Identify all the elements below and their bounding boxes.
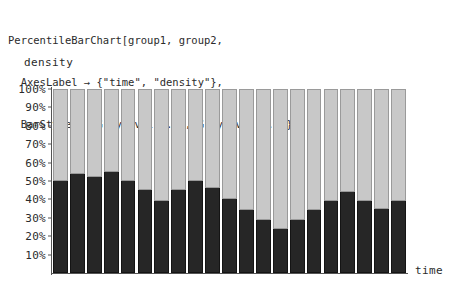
bar-segment-group1: [324, 201, 339, 273]
bar-segment-group1: [222, 199, 237, 273]
bar-segment-group2: [340, 89, 355, 192]
bar-segment-group2: [273, 89, 288, 229]
y-tick-label: 100%: [18, 83, 52, 96]
y-tick-mark: [48, 162, 52, 163]
bar-segment-group1: [171, 190, 186, 273]
bar-segment-group2: [171, 89, 186, 190]
bar-segment-group1: [374, 209, 389, 273]
bar-segment-group1: [391, 201, 406, 273]
code-line-1: PercentileBarChart[group1, group2,: [8, 33, 305, 47]
bar-segment-group1: [154, 201, 169, 273]
y-tick-mark: [48, 89, 52, 90]
y-tick-mark: [48, 254, 52, 255]
bar-column[interactable]: [290, 89, 305, 273]
x-axis-title: time: [415, 264, 443, 277]
bar-segment-group2: [121, 89, 136, 181]
bar-segment-group1: [70, 174, 85, 273]
bar-column[interactable]: [171, 89, 186, 273]
bar-column[interactable]: [138, 89, 153, 273]
bar-segment-group1: [239, 210, 254, 273]
bar-segment-group2: [391, 89, 406, 201]
bar-column[interactable]: [324, 89, 339, 273]
bar-segment-group1: [121, 181, 136, 273]
bar-segment-group2: [374, 89, 389, 209]
bar-segment-group2: [222, 89, 237, 199]
bar-column[interactable]: [188, 89, 203, 273]
bar-segment-group1: [357, 201, 372, 273]
bar-column[interactable]: [256, 89, 271, 273]
bar-column[interactable]: [340, 89, 355, 273]
bar-column[interactable]: [70, 89, 85, 273]
bar-segment-group1: [290, 220, 305, 273]
bar-column[interactable]: [222, 89, 237, 273]
bar-segment-group2: [307, 89, 322, 210]
bar-column[interactable]: [87, 89, 102, 273]
bar-column[interactable]: [273, 89, 288, 273]
bar-segment-group1: [273, 229, 288, 273]
bar-column[interactable]: [307, 89, 322, 273]
y-tick-mark: [48, 107, 52, 108]
bar-segment-group2: [324, 89, 339, 201]
bar-column[interactable]: [357, 89, 372, 273]
bar-segment-group2: [70, 89, 85, 174]
bar-column[interactable]: [53, 89, 68, 273]
bar-segment-group2: [53, 89, 68, 181]
bar-column[interactable]: [121, 89, 136, 273]
bar-segment-group2: [290, 89, 305, 220]
bar-column[interactable]: [239, 89, 254, 273]
bar-segment-group1: [188, 181, 203, 273]
bar-segment-group2: [357, 89, 372, 201]
bar-segment-group2: [239, 89, 254, 210]
bar-column[interactable]: [391, 89, 406, 273]
percentile-bar-chart: density time 100%90%80%70%60%50%40%30%20…: [0, 56, 457, 297]
bar-segment-group2: [188, 89, 203, 181]
bar-segment-group2: [205, 89, 220, 188]
y-tick-mark: [48, 217, 52, 218]
bar-segment-group2: [104, 89, 119, 172]
y-tick-mark: [48, 144, 52, 145]
y-tick-mark: [48, 199, 52, 200]
bar-segment-group1: [138, 190, 153, 273]
bar-segment-group1: [53, 181, 68, 273]
bar-column[interactable]: [374, 89, 389, 273]
y-tick-mark: [48, 236, 52, 237]
bar-segment-group1: [256, 220, 271, 273]
bar-segment-group2: [87, 89, 102, 177]
plot-box: 100%90%80%70%60%50%40%30%20%10% 12345678…: [52, 89, 407, 273]
y-tick-mark: [48, 181, 52, 182]
bar-segment-group1: [87, 177, 102, 273]
bar-column[interactable]: [104, 89, 119, 273]
bar-column[interactable]: [154, 89, 169, 273]
bar-segment-group1: [205, 188, 220, 273]
bar-segment-group2: [138, 89, 153, 190]
bar-segment-group2: [154, 89, 169, 201]
bar-segment-group1: [307, 210, 322, 273]
bar-segment-group1: [104, 172, 119, 273]
bar-segment-group2: [256, 89, 271, 220]
bar-column[interactable]: [205, 89, 220, 273]
bar-segment-group1: [340, 192, 355, 273]
y-tick-mark: [48, 125, 52, 126]
x-axis-line: [51, 273, 408, 274]
y-axis-title: density: [24, 56, 73, 69]
